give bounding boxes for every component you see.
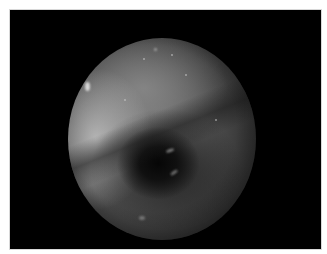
lens-vignette: [68, 38, 256, 240]
image-frame: [10, 10, 321, 249]
endoscopic-field-of-view: [68, 38, 256, 240]
